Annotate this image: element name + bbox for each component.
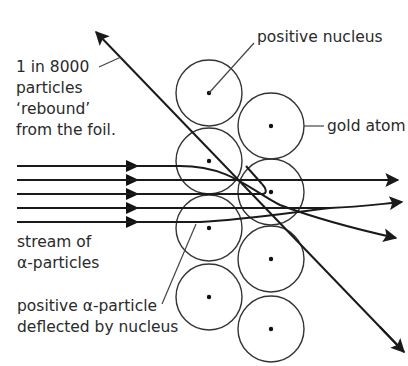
text-labels: 1 in 8000 particles ‘rebound’ from the f… <box>16 28 406 336</box>
rebound-path <box>17 184 266 194</box>
nucleus-dot <box>207 159 211 163</box>
stream-label-2: α-particles <box>17 254 99 272</box>
leader-lines <box>99 43 324 304</box>
slightly-deflected-path <box>17 202 402 208</box>
gold-atom-label: gold atom <box>327 117 406 135</box>
rebound-loop <box>246 166 262 184</box>
rebound-label-4: from the foil. <box>16 121 116 139</box>
deflected-label-2: deflected by nucleus <box>17 318 178 336</box>
nucleus-dot <box>269 327 273 331</box>
nucleus-dot <box>269 190 273 194</box>
leader-deflected <box>162 224 196 304</box>
leader-rebound <box>99 57 121 67</box>
rutherford-scattering-diagram: 1 in 8000 particles ‘rebound’ from the f… <box>0 0 408 366</box>
nucleus-dot <box>207 295 211 299</box>
nucleus-dot <box>269 257 273 261</box>
leader-positive-nucleus <box>209 43 254 93</box>
gold-foil-atoms <box>176 60 304 362</box>
rebound-arrow-bottom <box>380 327 404 352</box>
rebound-label-2: particles <box>16 79 83 97</box>
nucleus-dot <box>269 124 273 128</box>
rebound-label-1: 1 in 8000 <box>16 58 89 76</box>
stream-label-1: stream of <box>17 233 92 251</box>
nucleus-dot <box>207 226 211 230</box>
deflected-path-up <box>17 208 330 222</box>
rebound-label-3: ‘rebound’ <box>16 100 90 118</box>
positive-nucleus-label: positive nucleus <box>257 28 383 46</box>
deflected-label-1: positive α-particle <box>17 297 157 315</box>
deflected-path-down <box>17 166 396 238</box>
nuclei <box>207 91 273 331</box>
